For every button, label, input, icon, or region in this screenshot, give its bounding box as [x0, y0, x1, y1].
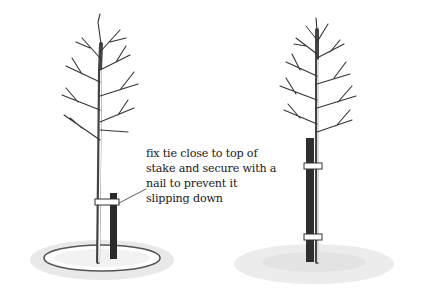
left-mulch-ring	[30, 240, 174, 280]
tie-annotation: fix tie close to top of stake and secure…	[146, 146, 276, 206]
annotation-line-4: slipping down	[146, 191, 276, 206]
annotation-line-2: stake and secure with a	[146, 161, 276, 176]
annotation-leader-line	[119, 189, 146, 203]
illustration-canvas: fix tie close to top of stake and secure…	[0, 0, 422, 299]
right-stake	[306, 138, 314, 262]
annotation-line-1: fix tie close to top of	[146, 146, 276, 161]
left-tie	[95, 199, 119, 205]
annotation-line-3: nail to prevent it	[146, 176, 276, 191]
right-tie-top	[304, 163, 322, 169]
right-tie-bottom	[304, 234, 322, 240]
